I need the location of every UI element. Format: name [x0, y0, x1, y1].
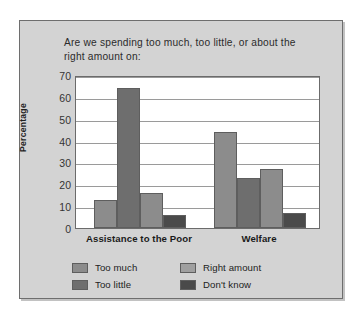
legend-label: Too little — [95, 279, 131, 290]
bar — [94, 200, 117, 228]
y-axis-label: Percentage — [18, 103, 28, 152]
x-axis-category-label: Welfare — [189, 233, 329, 244]
bar — [260, 169, 283, 228]
legend-swatch-icon — [180, 280, 196, 290]
legend-swatch-icon — [180, 263, 196, 273]
legend-label: Right amount — [203, 262, 261, 273]
gridline — [76, 77, 319, 78]
y-axis-tick-label: 50 — [42, 114, 71, 126]
y-axis-tick-label: 0 — [42, 223, 71, 235]
gridline — [76, 164, 319, 165]
bar — [283, 213, 306, 228]
chart-title: Are we spending too much, too little, or… — [64, 36, 314, 63]
y-axis-tick-label: 70 — [42, 70, 71, 82]
chart-legend: Too muchRight amountToo littleDon't know — [72, 259, 302, 293]
legend-swatch-icon — [72, 280, 88, 290]
bar — [117, 88, 140, 228]
legend-item[interactable]: Too little — [72, 279, 180, 290]
bar — [163, 215, 186, 228]
y-axis-tick-label: 40 — [42, 136, 71, 148]
y-axis-tick-label: 60 — [42, 92, 71, 104]
gridline — [76, 143, 319, 144]
legend-swatch-icon — [72, 263, 88, 273]
legend-label: Too much — [95, 262, 137, 273]
gridline — [76, 121, 319, 122]
legend-item[interactable]: Right amount — [180, 262, 302, 273]
x-axis-category-label: Assistance to the Poor — [69, 233, 209, 244]
figure-root: Are we spending too much, too little, or… — [0, 0, 359, 324]
y-axis-tick-label: 30 — [42, 157, 71, 169]
bar — [140, 193, 163, 228]
legend-label: Don't know — [203, 279, 251, 290]
legend-item[interactable]: Don't know — [180, 279, 302, 290]
chart-panel: Are we spending too much, too little, or… — [19, 20, 343, 299]
y-axis-tick-label: 20 — [42, 179, 71, 191]
y-axis-tick-label: 10 — [42, 201, 71, 213]
bar — [214, 132, 237, 228]
legend-item[interactable]: Too much — [72, 262, 180, 273]
bar — [237, 178, 260, 228]
plot-area — [75, 76, 320, 229]
gridline — [76, 99, 319, 100]
